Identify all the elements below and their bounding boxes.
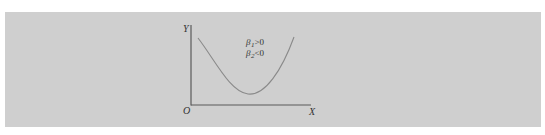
x-axis-label: X <box>308 106 316 117</box>
beta2-annotation: β 2 <0 <box>245 48 265 60</box>
y-axis-label: Y <box>183 23 190 34</box>
svg-text:>0: >0 <box>255 37 265 47</box>
svg-text:<0: <0 <box>255 48 265 58</box>
origin-label: O <box>183 105 190 116</box>
quadratic-curve-diagram: Y O X β 1 >0 β 2 <0 <box>0 0 545 135</box>
